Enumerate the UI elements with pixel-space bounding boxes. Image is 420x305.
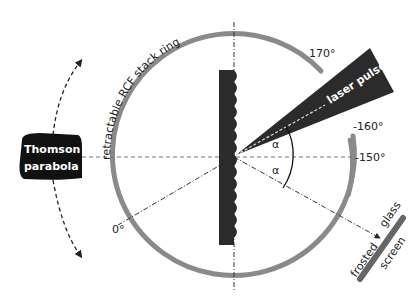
rcf-ring-arc-small <box>348 138 353 196</box>
angle-minus150-label: -150° <box>355 151 385 164</box>
alpha-lower: α <box>272 164 279 177</box>
rotation-arrow-up <box>53 62 80 135</box>
target-foil <box>219 70 237 245</box>
laser-axis <box>236 105 325 155</box>
thomson-label-1: Thomson <box>24 143 80 156</box>
reflected-beam-line <box>234 157 378 237</box>
alpha-upper: α <box>272 138 279 151</box>
zero-degree-line <box>118 157 234 225</box>
thomson-label-2: parabola <box>24 160 79 173</box>
angle-minus160-label: -160° <box>353 120 383 133</box>
angle-170-label: 170° <box>309 47 336 60</box>
rotation-arrow-down <box>53 180 80 255</box>
angle-0-label: 0° <box>112 223 125 236</box>
diagram-canvas: laser pulse α α 170° -160° -150° 0° retr… <box>0 0 420 305</box>
